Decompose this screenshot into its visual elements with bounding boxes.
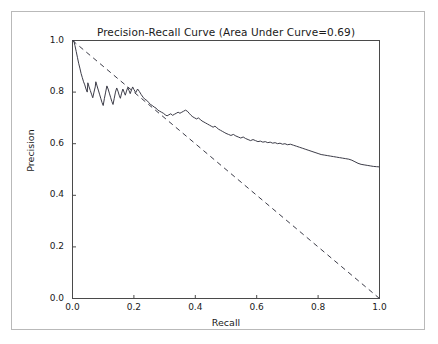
plot-area [0,0,438,344]
figure-canvas: Precision-Recall Curve (Area Under Curve… [0,0,438,344]
data-series [73,41,380,299]
series-baseline-diagonal [73,41,380,299]
series-precision-recall [73,41,380,167]
